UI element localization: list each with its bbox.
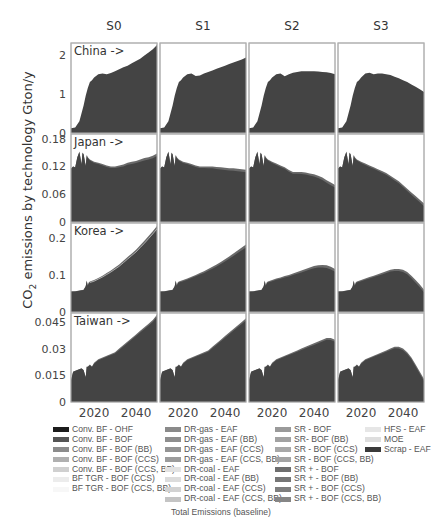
legend-column-1: Conv. BF - OHFConv. BF - BOFConv. BF - B… [53, 425, 175, 494]
panel-china-s1 [160, 43, 246, 133]
legend-swatch-icon [165, 467, 181, 472]
legend-swatch-icon [275, 467, 291, 472]
legend-swatch-icon [275, 427, 291, 432]
panel-china-s2 [249, 43, 335, 133]
x-tick-label: 2020 [168, 406, 199, 420]
panel-taiwan-s3 [338, 313, 424, 402]
panel-china-s0: China -> [71, 43, 157, 133]
legend-swatch-icon [53, 427, 69, 432]
legend-swatch-icon [275, 487, 291, 492]
legend-swatch-icon [165, 427, 181, 432]
legend-swatch-icon [53, 447, 69, 452]
legend-swatch-icon [53, 467, 69, 472]
row-label: Japan -> [73, 135, 124, 149]
legend-swatch-icon [275, 457, 291, 462]
y-tick-label: 0.1 [49, 269, 67, 282]
panel-korea-s1 [160, 223, 246, 312]
panel-japan-s3 [338, 134, 424, 222]
legend-item: BF TGR - BOF (CCS, BB) [53, 484, 175, 494]
panel-korea-s2 [249, 223, 335, 312]
y-tick-label: 0.12 [42, 160, 67, 173]
legend-label: Scrap - EAF [384, 445, 431, 455]
legend-swatch-icon [365, 427, 381, 432]
legend-caption: Total Emissions (baseline) [0, 507, 442, 517]
legend-column-4: HFS - EAFMOEScrap - EAF [365, 425, 431, 455]
legend-swatch-icon [53, 477, 69, 482]
legend-swatch-icon [165, 487, 181, 492]
panel-korea-s0: Korea -> [71, 223, 157, 312]
legend-label: BF TGR - BOF (CCS, BB) [72, 484, 171, 494]
legend-swatch-icon [165, 437, 181, 442]
y-tick-label: 0.18 [42, 133, 67, 146]
legend-swatch-icon [165, 477, 181, 482]
y-tick-label: 0.045 [35, 316, 67, 329]
legend-swatch-icon [275, 437, 291, 442]
legend-label: SR + - BOF (CCS, BB) [294, 494, 381, 504]
plot-grid: 012China ->00.060.120.18Japan ->00.10.2K… [0, 0, 442, 425]
legend-swatch-icon [275, 497, 291, 502]
panel-japan-s1 [160, 134, 246, 222]
y-tick-label: 2 [59, 49, 66, 62]
x-tick-label: 2040 [121, 406, 152, 420]
x-tick-label: 2020 [346, 406, 377, 420]
panel-japan-s2 [249, 134, 335, 222]
legend-swatch-icon [165, 447, 181, 452]
y-tick-label: 0 [59, 216, 66, 229]
panel-japan-s0: Japan -> [71, 134, 157, 222]
legend-swatch-icon [365, 437, 381, 442]
panel-taiwan-s2 [249, 313, 335, 402]
y-tick-label: 0.03 [42, 343, 67, 356]
legend-swatch-icon [53, 487, 69, 492]
y-tick-label: 0 [59, 396, 66, 409]
panel-korea-s3 [338, 223, 424, 312]
y-tick-label: 0.06 [42, 188, 67, 201]
legend-item: DR-coal - EAF (CCS, BB) [165, 494, 282, 504]
y-tick-label: 0.015 [35, 369, 67, 382]
legend-swatch-icon [275, 447, 291, 452]
legend-swatch-icon [165, 497, 181, 502]
panel-taiwan-s1 [160, 313, 246, 402]
legend-swatch-icon [365, 447, 381, 452]
legend-label: DR-coal - EAF (CCS, BB) [184, 494, 282, 504]
x-tick-label: 2040 [388, 406, 419, 420]
legend-item: Scrap - EAF [365, 445, 431, 455]
panel-taiwan-s0: Taiwan -> [71, 313, 157, 402]
legend-swatch-icon [53, 457, 69, 462]
row-label: Taiwan -> [73, 314, 131, 328]
legend-swatch-icon [165, 457, 181, 462]
y-tick-label: 0.2 [49, 232, 67, 245]
row-label: Korea -> [74, 224, 124, 238]
legend-column-2: DR-gas - EAFDR-gas - EAF (BB)DR-gas - EA… [165, 425, 282, 504]
legend-swatch-icon [275, 477, 291, 482]
y-tick-label: 1 [59, 88, 66, 101]
x-tick-label: 2020 [257, 406, 288, 420]
figure: S0 S1 S2 S3 CO2 emissions by technology … [0, 0, 442, 532]
panel-china-s3 [338, 43, 424, 133]
x-tick-label: 2040 [210, 406, 241, 420]
legend-swatch-icon [53, 437, 69, 442]
x-tick-label: 2040 [299, 406, 330, 420]
x-tick-label: 2020 [79, 406, 110, 420]
legend-item: SR + - BOF (CCS, BB) [275, 494, 381, 504]
row-label: China -> [74, 44, 124, 58]
